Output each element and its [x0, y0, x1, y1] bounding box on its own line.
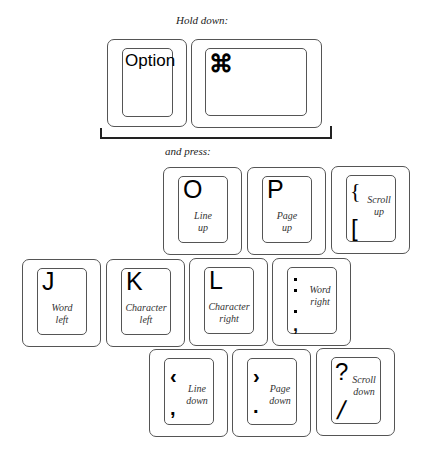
key-bracket-action-line1: Scroll [363, 194, 395, 206]
key-p-action-line1: Page [263, 210, 311, 222]
key-o: O Line up [163, 167, 242, 255]
key-semicolon-action: Word right [304, 284, 336, 308]
key-p-cap: P Page up [262, 176, 312, 243]
hold-down-caption: Hold down: [176, 14, 228, 26]
colon-dot-top [294, 278, 297, 281]
key-l-glyph: L [209, 267, 223, 294]
and-press-caption: and press: [165, 145, 211, 157]
key-bracket: { [ Scroll up [331, 166, 410, 254]
key-period-lower: . [253, 396, 259, 416]
colon-dot-bottom [294, 289, 297, 292]
key-j: J Word left [22, 259, 101, 347]
key-o-cap: O Line up [178, 176, 228, 243]
key-bracket-cap: { [ Scroll up [346, 175, 396, 242]
key-k-action: Character left [122, 302, 170, 326]
command-icon: ⌘ [209, 51, 233, 77]
key-comma-lower: , [170, 398, 176, 418]
key-p: P Page up [247, 167, 326, 255]
semicolon-dot [294, 310, 297, 313]
key-j-action: Word left [38, 302, 86, 326]
key-semicolon-action-line2: right [304, 296, 336, 308]
option-key: Option [107, 39, 187, 127]
key-p-action-line2: up [263, 222, 311, 234]
key-o-glyph: O [183, 176, 202, 203]
key-l-action-line1: Character [205, 301, 253, 313]
key-p-glyph: P [267, 176, 284, 203]
key-j-cap: J Word left [37, 268, 87, 335]
key-l-action-line2: right [205, 313, 253, 325]
key-l: L Character right [189, 258, 268, 346]
key-p-action: Page up [263, 210, 311, 234]
modifier-bracket [100, 137, 332, 139]
option-key-cap: Option [122, 48, 173, 117]
key-slash-cap: ? / Scroll down [331, 357, 381, 424]
key-period-action-line2: down [264, 395, 296, 407]
key-bracket-lower: [ [351, 218, 358, 238]
key-comma-cap: ‹ , Line down [164, 358, 214, 425]
key-semicolon-cap: , Word right [287, 267, 337, 334]
key-l-cap: L Character right [204, 267, 254, 334]
command-key: ⌘ [191, 39, 322, 128]
key-o-action-line1: Line [179, 210, 227, 222]
key-k-action-line1: Character [122, 302, 170, 314]
key-slash: ? / Scroll down [316, 348, 395, 436]
key-slash-action: Scroll down [348, 374, 380, 398]
key-k: K Character left [106, 259, 185, 347]
key-period-cap: › . Page down [247, 358, 297, 425]
key-semicolon: , Word right [272, 258, 351, 346]
key-comma-upper: ‹ [170, 365, 177, 387]
key-semicolon-action-line1: Word [304, 284, 336, 296]
key-comma-action: Line down [181, 383, 213, 407]
key-period-upper: › [253, 365, 260, 387]
key-slash-action-line1: Scroll [348, 374, 380, 386]
key-k-cap: K Character left [121, 268, 171, 335]
key-slash-action-line2: down [348, 386, 380, 398]
command-key-cap: ⌘ [205, 48, 307, 116]
key-period-action: Page down [264, 383, 296, 407]
semicolon-tail: , [293, 316, 298, 334]
key-bracket-action: Scroll up [363, 194, 395, 218]
key-comma-action-line2: down [181, 395, 213, 407]
key-period: › . Page down [232, 349, 311, 437]
key-bracket-upper: { [350, 177, 361, 204]
bracket-right-tick [330, 126, 332, 138]
key-j-action-line2: left [38, 314, 86, 326]
key-j-action-line1: Word [38, 302, 86, 314]
key-slash-lower: / [336, 400, 347, 420]
key-period-action-line1: Page [264, 383, 296, 395]
key-o-action: Line up [179, 210, 227, 234]
key-o-action-line2: up [179, 222, 227, 234]
key-k-action-line2: left [122, 314, 170, 326]
key-l-action: Character right [205, 301, 253, 325]
key-bracket-action-line2: up [363, 206, 395, 218]
key-comma: ‹ , Line down [149, 349, 228, 437]
key-j-glyph: J [42, 268, 55, 295]
key-k-glyph: K [126, 268, 143, 295]
key-slash-upper: ? [335, 358, 348, 385]
key-comma-action-line1: Line [181, 383, 213, 395]
option-key-label: Option [125, 51, 175, 71]
